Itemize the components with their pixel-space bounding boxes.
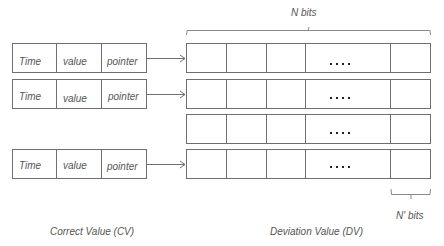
ellipsis-dots xyxy=(330,63,350,168)
cv-cell-pointer: pointer xyxy=(108,91,139,102)
pointer-arrow-3 xyxy=(147,161,186,168)
bottom-brace xyxy=(391,189,431,199)
dv-caption: Deviation Value (DV) xyxy=(270,226,363,237)
n-prime-bits-label: N' bits xyxy=(396,210,423,221)
dv-row-3 xyxy=(187,115,431,144)
cv-cell-value: value xyxy=(63,93,87,104)
dv-row-1 xyxy=(187,44,431,73)
cv-cell-value: value xyxy=(63,160,87,171)
cv-cell-time: Time xyxy=(19,160,41,171)
pointer-arrow-2 xyxy=(147,91,186,98)
cv-cell-time: Time xyxy=(19,91,41,102)
n-bits-label: N bits xyxy=(291,7,317,18)
cv-cell-time: Time xyxy=(19,56,41,67)
cv-caption: Correct Value (CV) xyxy=(50,226,134,237)
dv-row-4 xyxy=(187,150,431,179)
cv-cell-pointer: pointer xyxy=(107,56,138,67)
top-brace xyxy=(187,27,431,35)
cv-cell-pointer: pointer xyxy=(107,161,138,172)
dv-row-2 xyxy=(187,80,431,109)
diagram-canvas xyxy=(0,0,444,246)
pointer-arrow-1 xyxy=(147,55,186,62)
cv-cell-value: value xyxy=(63,56,87,67)
